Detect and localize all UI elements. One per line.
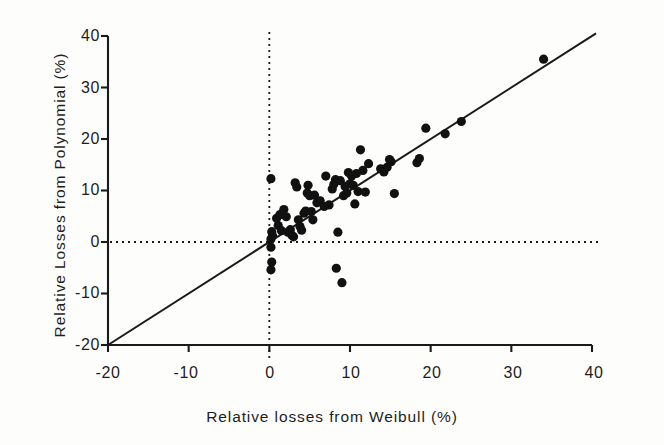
data-point	[308, 215, 317, 224]
data-point	[421, 124, 430, 133]
data-point	[342, 188, 351, 197]
data-point	[333, 228, 342, 237]
data-point	[266, 243, 275, 252]
data-point	[307, 207, 316, 216]
plot-canvas	[0, 0, 664, 445]
data-point	[390, 189, 399, 198]
data-point	[324, 200, 333, 209]
data-point	[292, 182, 301, 191]
data-point	[332, 264, 341, 273]
data-point	[356, 145, 365, 154]
data-point	[282, 212, 291, 221]
data-point	[321, 171, 330, 180]
data-point	[266, 174, 275, 183]
data-point	[539, 55, 548, 64]
data-point	[441, 129, 450, 138]
scatter-plot-figure: Relative Losses from Polynomial (%) Rela…	[0, 0, 664, 445]
data-point	[350, 199, 359, 208]
data-point	[457, 117, 466, 126]
data-point	[337, 278, 346, 287]
data-point	[297, 226, 306, 235]
data-point	[289, 232, 298, 241]
data-point	[266, 265, 275, 274]
data-point	[415, 154, 424, 163]
data-point	[361, 187, 370, 196]
data-point	[387, 157, 396, 166]
data-point	[303, 181, 312, 190]
data-points-group	[266, 55, 548, 288]
data-point	[364, 159, 373, 168]
data-point	[266, 234, 275, 243]
